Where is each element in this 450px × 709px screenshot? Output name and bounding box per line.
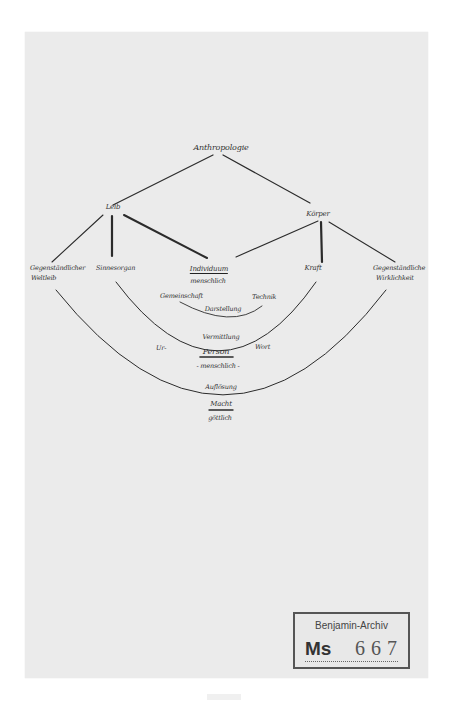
- stamp-prefix: Ms: [305, 638, 331, 660]
- label-wort: Wort: [255, 343, 270, 351]
- footer-mark: [207, 694, 241, 700]
- label-person: Person: [203, 347, 229, 356]
- label-gemeinschaft: Gemeinschaft: [160, 292, 203, 300]
- label-aufloesung: Auflösung: [205, 383, 236, 391]
- label-goettlich: göttlich: [208, 414, 232, 422]
- label-root: Anthropologie: [193, 143, 248, 152]
- label-leib: Leib: [106, 203, 121, 211]
- label-far-right-2: Wirklichkeit: [376, 274, 414, 282]
- label-menschlich-2: - menschlich -: [196, 362, 239, 370]
- label-sinnesorgan: Sinnesorgan: [96, 264, 135, 272]
- label-far-right-1: Gegenständliche: [373, 264, 425, 272]
- label-far-left-1: Gegenständlicher: [30, 264, 85, 272]
- label-individuum: Individuum: [190, 265, 228, 274]
- stamp-number: 667: [355, 637, 403, 660]
- label-far-left-2: Weltleib: [31, 274, 56, 282]
- label-kraft: Kraft: [304, 264, 321, 272]
- stamp-dotted-line: [305, 661, 398, 662]
- label-menschlich-1: menschlich: [190, 277, 225, 285]
- label-macht: Macht: [210, 400, 232, 408]
- label-ur: Ur-: [156, 344, 166, 352]
- label-koerper: Körper: [306, 210, 329, 218]
- label-technik: Technik: [252, 293, 276, 301]
- label-vermittlung: Vermittlung: [203, 333, 240, 341]
- stamp-title: Benjamin-Archiv: [295, 620, 408, 631]
- archive-stamp: Benjamin-Archiv Ms 667: [293, 612, 410, 669]
- label-darstellung: Darstellung: [205, 305, 241, 313]
